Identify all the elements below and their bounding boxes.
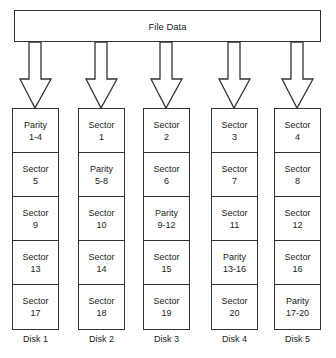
disk-3-column: Sector2 Sector6 Parity9-12 Sector15 Sect…: [143, 108, 190, 330]
cell: Sector17: [13, 285, 58, 329]
cell-type: Parity: [155, 207, 178, 219]
cell: Sector5: [13, 153, 58, 197]
cell: Sector8: [275, 153, 320, 197]
cell-type: Sector: [88, 295, 114, 307]
cell-type: Sector: [153, 163, 179, 175]
cell: Sector7: [212, 153, 257, 197]
cell: Sector10: [79, 197, 124, 241]
cell-value: 14: [96, 263, 106, 275]
disk-2-label: Disk 2: [78, 334, 125, 344]
cell-value: 1-4: [29, 131, 42, 143]
disk-5-label: Disk 5: [274, 334, 321, 344]
cell: Sector2: [144, 109, 189, 153]
cell: Parity5-8: [79, 153, 124, 197]
cell-type: Sector: [88, 119, 114, 131]
cell-type: Parity: [24, 119, 47, 131]
cell-value: 11: [230, 219, 239, 231]
cell-type: Sector: [284, 163, 310, 175]
cell-value: 3: [232, 131, 237, 143]
cell-value: 19: [161, 307, 171, 319]
arrow-down-icon: [20, 42, 51, 108]
arrow-down-icon: [219, 42, 250, 108]
cell: Sector19: [144, 285, 189, 329]
cell: Sector15: [144, 241, 189, 285]
cell: Parity9-12: [144, 197, 189, 241]
cell-type: Sector: [22, 207, 48, 219]
cell: Sector16: [275, 241, 320, 285]
cell-value: 13-16: [223, 263, 246, 275]
disk-4-column: Sector3 Sector7 Sector11 Parity13-16 Sec…: [211, 108, 258, 330]
cell-type: Sector: [22, 251, 48, 263]
cell-type: Sector: [153, 251, 179, 263]
disk-1-column: Parity1-4 Sector5 Sector9 Sector13 Secto…: [12, 108, 59, 330]
cell-value: 9: [33, 219, 38, 231]
cell: Sector3: [212, 109, 257, 153]
cell: Sector12: [275, 197, 320, 241]
cell-type: Sector: [88, 251, 114, 263]
cell-value: 12: [292, 219, 302, 231]
cell: Sector11: [212, 197, 257, 241]
cell: Sector20: [212, 285, 257, 329]
cell-value: 13: [30, 263, 40, 275]
cell-value: 9-12: [157, 219, 175, 231]
cell-type: Sector: [22, 163, 48, 175]
arrows: [0, 0, 336, 120]
cell-type: Parity: [90, 163, 113, 175]
cell-value: 17: [30, 307, 40, 319]
cell-value: 18: [96, 307, 106, 319]
cell: Parity1-4: [13, 109, 58, 153]
cell-value: 17-20: [286, 307, 309, 319]
disk-2-column: Sector1 Parity5-8 Sector10 Sector14 Sect…: [78, 108, 125, 330]
cell-value: 4: [295, 131, 300, 143]
cell-type: Sector: [221, 119, 247, 131]
disk-1-label: Disk 1: [12, 334, 59, 344]
cell-type: Sector: [284, 207, 310, 219]
cell-value: 20: [229, 307, 239, 319]
cell: Sector4: [275, 109, 320, 153]
cell-value: 8: [295, 175, 300, 187]
cell: Parity17-20: [275, 285, 320, 329]
cell-value: 5-8: [95, 175, 108, 187]
disk-4-label: Disk 4: [211, 334, 258, 344]
cell-value: 1: [99, 131, 104, 143]
cell: Sector13: [13, 241, 58, 285]
cell: Sector14: [79, 241, 124, 285]
cell-type: Sector: [153, 295, 179, 307]
cell-type: Parity: [223, 251, 246, 263]
cell: Parity13-16: [212, 241, 257, 285]
cell-type: Parity: [286, 295, 309, 307]
cell-value: 15: [161, 263, 171, 275]
disk-3-label: Disk 3: [143, 334, 190, 344]
cell-type: Sector: [22, 295, 48, 307]
cell-value: 7: [232, 175, 237, 187]
cell: Sector18: [79, 285, 124, 329]
cell-type: Sector: [221, 207, 247, 219]
arrow-down-icon: [86, 42, 117, 108]
disk-5-column: Sector4 Sector8 Sector12 Sector16 Parity…: [274, 108, 321, 330]
cell: Sector9: [13, 197, 58, 241]
cell-type: Sector: [221, 295, 247, 307]
cell-value: 10: [96, 219, 106, 231]
arrow-down-icon: [282, 42, 313, 108]
cell: Sector1: [79, 109, 124, 153]
cell-type: Sector: [284, 119, 310, 131]
cell-value: 16: [292, 263, 302, 275]
arrow-down-icon: [151, 42, 182, 108]
cell-value: 6: [164, 175, 169, 187]
cell-type: Sector: [284, 251, 310, 263]
cell-type: Sector: [153, 119, 179, 131]
cell-value: 5: [33, 175, 38, 187]
cell-type: Sector: [88, 207, 114, 219]
cell-value: 2: [164, 131, 169, 143]
cell: Sector6: [144, 153, 189, 197]
cell-type: Sector: [221, 163, 247, 175]
